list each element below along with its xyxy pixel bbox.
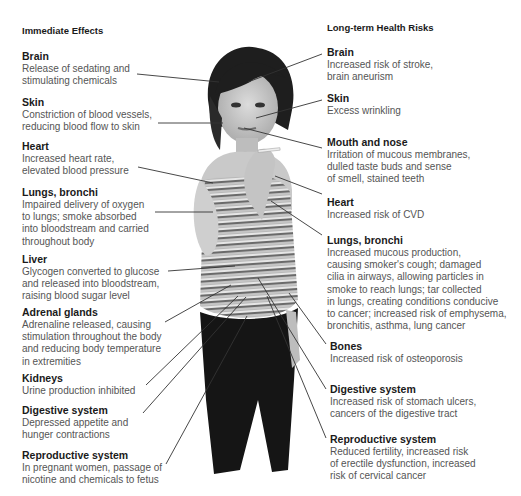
item-heading: Brain [22,50,130,63]
item-heading: Bones [330,340,463,353]
longterm-brain: Brain Increased risk of stroke, brain an… [327,46,433,83]
item-description: In pregnant women, passage of nicotine a… [22,462,162,486]
item-description: Urine production inhibited [22,385,135,397]
immediate-kidneys: Kidneys Urine production inhibited [22,372,135,397]
immediate-brain: Brain Release of sedating and stimulatin… [22,50,130,87]
item-heading: Heart [22,140,129,153]
immediate-liver: Liver Glycogen converted to glucose and … [22,253,159,303]
item-description: Reduced fertility, increased risk of ere… [330,446,476,483]
item-description: Depressed appetite and hunger contractio… [22,417,128,441]
item-heading: Reproductive system [330,433,476,446]
item-heading: Heart [327,196,424,209]
item-description: Increased mucous production, causing smo… [327,247,507,332]
item-heading: Digestive system [22,404,128,417]
item-description: Release of sedating and stimulating chem… [22,63,130,87]
item-heading: Lungs, bronchi [327,234,507,247]
longterm-skin: Skin Excess wrinkling [327,92,401,117]
item-description: Increased risk of CVD [327,209,424,221]
item-description: Increased risk of osteoporosis [330,353,463,365]
immediate-adrenal-glands: Adrenal glands Adrenaline released, caus… [22,306,162,368]
item-description: Impaired delivery of oxygen to lungs; sm… [22,199,149,248]
longterm-bones: Bones Increased risk of osteoporosis [330,340,463,365]
longterm-lungs-bronchi: Lungs, bronchi Increased mucous producti… [327,234,507,332]
item-description: Constriction of blood vessels, reducing … [22,109,152,133]
item-description: Adrenaline released, causing stimulation… [22,319,162,368]
immediate-digestive-system: Digestive system Depressed appetite and … [22,404,128,441]
longterm-mouth-and-nose: Mouth and nose Irritation of mucous memb… [327,136,470,186]
immediate-lungs-bronchi: Lungs, bronchi Impaired delivery of oxyg… [22,186,149,248]
immediate-reproductive-system: Reproductive system In pregnant women, p… [22,449,162,486]
item-description: Excess wrinkling [327,105,401,117]
item-heading: Skin [327,92,401,105]
item-heading: Kidneys [22,372,135,385]
longterm-heart: Heart Increased risk of CVD [327,196,424,221]
item-description: Increased heart rate, elevated blood pre… [22,153,129,177]
immediate-effects-title: Immediate Effects [22,25,103,36]
immediate-skin: Skin Constriction of blood vessels, redu… [22,96,152,133]
item-description: Increased risk of stomach ulcers, cancer… [330,396,476,420]
item-description: Glycogen converted to glucose and releas… [22,266,159,303]
item-heading: Liver [22,253,159,266]
immediate-heart: Heart Increased heart rate, elevated blo… [22,140,129,177]
item-description: Increased risk of stroke, brain aneurism [327,59,433,83]
item-heading: Reproductive system [22,449,162,462]
item-heading: Lungs, bronchi [22,186,149,199]
item-description: Irritation of mucous membranes, dulled t… [327,149,470,186]
item-heading: Adrenal glands [22,306,162,319]
item-heading: Digestive system [330,383,476,396]
long-term-risks-title: Long-term Health Risks [327,22,434,33]
item-heading: Brain [327,46,433,59]
item-heading: Mouth and nose [327,136,470,149]
longterm-reproductive-system: Reproductive system Reduced fertility, i… [330,433,476,483]
longterm-digestive-system: Digestive system Increased risk of stoma… [330,383,476,420]
item-heading: Skin [22,96,152,109]
